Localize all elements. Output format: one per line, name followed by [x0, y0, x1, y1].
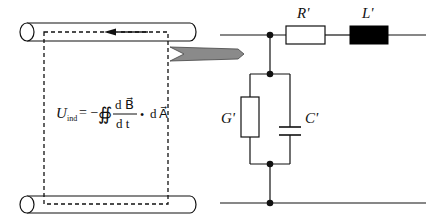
resistor-r-icon	[286, 26, 325, 44]
svg-text:ind: ind	[67, 114, 77, 123]
svg-text:d A⃗: d A⃗	[150, 106, 168, 121]
conductance-g-icon	[241, 97, 259, 137]
svg-text:•: •	[140, 108, 144, 122]
conductance-g-label: G'	[221, 110, 236, 126]
pointer-arrow-icon	[170, 47, 244, 61]
inductor-l-label: L'	[361, 5, 374, 21]
bottom-conductor	[20, 196, 196, 213]
svg-text:d t: d t	[116, 116, 130, 131]
transmission-line-diagram: U ind = − ∯ d B⃗ d t • d A⃗	[0, 0, 443, 223]
svg-text:= −: = −	[79, 105, 98, 120]
resistor-r-label: R'	[296, 5, 310, 21]
inductor-l-icon	[350, 26, 388, 44]
svg-text:∯: ∯	[98, 104, 112, 124]
induced-voltage-equation: U ind = − ∯ d B⃗ d t • d A⃗	[56, 97, 168, 131]
loop-direction-arrow-icon	[104, 29, 148, 36]
svg-text:d B⃗: d B⃗	[115, 97, 134, 112]
capacitor-c-label: C'	[305, 110, 319, 126]
capacitor-c-icon	[279, 127, 301, 135]
